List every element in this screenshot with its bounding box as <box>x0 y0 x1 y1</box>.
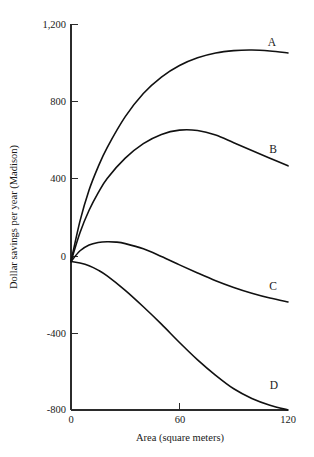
y-tick-label-400: 400 <box>50 173 66 184</box>
x-axis-title: Area (square meters) <box>136 432 225 444</box>
curve-label-d: D <box>270 379 278 391</box>
y-tick-label-0: 0 <box>61 251 66 262</box>
chart-figure: 1,200 800 400 0 -400 -800 0 60 120 Area … <box>0 0 314 457</box>
y-tick-label-1200: 1,200 <box>42 19 66 30</box>
curve-a <box>71 50 288 261</box>
y-axis-title: Dollar savings per year (Madison) <box>8 144 20 289</box>
y-tick-label-minus800: -800 <box>47 404 66 415</box>
y-tick-label-minus400: -400 <box>47 328 66 339</box>
x-tick-label-60: 60 <box>175 414 186 425</box>
x-tick-label-0: 0 <box>68 414 73 425</box>
x-tick-label-120: 120 <box>280 414 296 425</box>
line-chart: 1,200 800 400 0 -400 -800 0 60 120 Area … <box>0 0 314 457</box>
y-tick-label-800: 800 <box>50 96 66 107</box>
curve-label-b: B <box>269 143 277 155</box>
curve-c <box>71 242 288 302</box>
curve-d <box>71 261 288 410</box>
curve-label-c: C <box>269 280 277 292</box>
curve-label-a: A <box>268 36 277 48</box>
